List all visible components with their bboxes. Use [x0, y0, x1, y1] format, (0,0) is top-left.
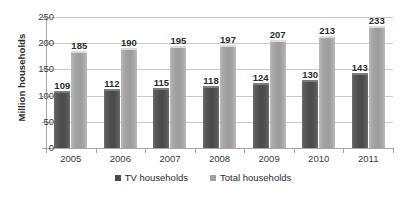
- bar-value-label: 190: [121, 37, 137, 48]
- bar-value-label: 195: [171, 35, 187, 46]
- x-tick-label: 2011: [343, 153, 393, 164]
- bar-value-label: 109: [54, 80, 70, 91]
- bar: 233: [369, 26, 385, 148]
- x-tick-label: 2005: [46, 153, 96, 164]
- bar-value-label: 112: [104, 78, 119, 89]
- bar-value-label: 115: [154, 77, 169, 88]
- bar: 190: [121, 48, 137, 148]
- bar-value-label: 213: [319, 25, 335, 36]
- bar: 213: [319, 36, 335, 148]
- bar: 130: [302, 80, 318, 148]
- legend-label: TV households: [125, 172, 188, 183]
- bar-group: 112190: [96, 17, 146, 148]
- x-tick-label: 2009: [244, 153, 294, 164]
- bar-value-label: 118: [203, 75, 218, 86]
- bar: 195: [170, 46, 186, 148]
- x-tick-label: 2006: [96, 153, 146, 164]
- bar: 115: [153, 88, 169, 148]
- bar: 109: [54, 91, 70, 148]
- bar-value-label: 233: [369, 15, 385, 26]
- x-tick-label: 2008: [195, 153, 245, 164]
- legend-label: Total households: [220, 172, 291, 183]
- bar-value-label: 124: [253, 72, 269, 83]
- bar-chart: Million households 050100150200250 10918…: [0, 0, 406, 203]
- bar: 207: [270, 40, 286, 148]
- bar-group: 118197: [195, 17, 245, 148]
- bar: 118: [203, 86, 219, 148]
- legend-swatch: [210, 175, 216, 181]
- bar-groups: 1091851121901151951181971242071302131432…: [46, 17, 393, 148]
- x-axis-labels: 2005200620072008200920102011: [46, 153, 393, 164]
- y-axis-title: Million households: [16, 10, 27, 146]
- bar-value-label: 185: [71, 40, 87, 51]
- bar-group: 143233: [343, 17, 393, 148]
- bar: 124: [253, 83, 269, 148]
- bar: 112: [104, 89, 120, 148]
- x-tick-mark: [393, 148, 394, 153]
- bar: 197: [220, 45, 236, 148]
- x-tick-label: 2010: [294, 153, 344, 164]
- legend-swatch: [115, 175, 121, 181]
- legend-item[interactable]: TV households: [115, 172, 188, 183]
- bar: 185: [71, 51, 87, 148]
- bar-value-label: 143: [352, 62, 368, 73]
- bar-group: 124207: [244, 17, 294, 148]
- bar-group: 130213: [294, 17, 344, 148]
- legend: TV householdsTotal households: [0, 172, 406, 183]
- bar-group: 109185: [46, 17, 96, 148]
- bar-value-label: 130: [302, 69, 318, 80]
- bar-value-label: 197: [220, 34, 236, 45]
- bar: 143: [352, 73, 368, 148]
- legend-item[interactable]: Total households: [210, 172, 291, 183]
- bar-value-label: 207: [270, 29, 286, 40]
- x-tick-label: 2007: [145, 153, 195, 164]
- bar-group: 115195: [145, 17, 195, 148]
